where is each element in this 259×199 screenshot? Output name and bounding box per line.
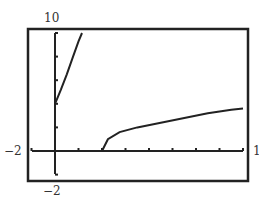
viewing-window-frame <box>28 29 248 181</box>
curve-left-branch <box>55 33 82 104</box>
axis-ticks <box>32 33 244 175</box>
curve-right-branch <box>102 109 243 152</box>
graph-window <box>0 0 259 199</box>
